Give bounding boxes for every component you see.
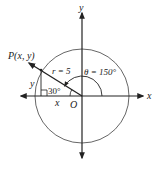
vertical-leg-label: y (29, 78, 35, 89)
reference-angle-arc (70, 90, 72, 96)
right-angle-marker (41, 90, 47, 96)
theta-label: θ = 150° (84, 67, 116, 77)
reference-angle-label: 30° (48, 86, 61, 96)
y-axis-label: y (78, 2, 84, 13)
unit-circle-diagram: y x O P(x, y) r = 5 θ = 150° 30° x y (0, 0, 162, 174)
origin-label: O (70, 99, 77, 110)
x-axis-label: x (146, 90, 152, 101)
horizontal-leg-label: x (54, 97, 60, 108)
point-p-label: P(x, y) (7, 50, 35, 62)
radius-label: r = 5 (52, 66, 71, 76)
